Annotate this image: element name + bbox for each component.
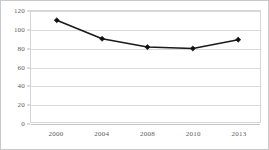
y-tick-label-100: 100	[14, 26, 25, 33]
data-point-2004	[100, 36, 105, 41]
y-axis: 020406080100120	[1, 10, 30, 123]
data-point-2008	[145, 45, 150, 50]
plot-area	[30, 10, 261, 123]
chart-frame: 020406080100120 20002004200820102013	[0, 0, 269, 150]
series-line-chart	[31, 11, 260, 122]
y-tick-label-60: 60	[18, 64, 25, 71]
y-tick-label-80: 80	[18, 45, 25, 52]
x-tick-label-2008: 2008	[140, 131, 155, 138]
y-tick-label-20: 20	[18, 102, 25, 109]
x-tick-label-2013: 2013	[232, 131, 247, 138]
x-tick-label-2010: 2010	[186, 131, 201, 138]
data-point-2010	[190, 46, 195, 51]
x-tick-label-2004: 2004	[94, 131, 109, 138]
series-marker-group	[54, 18, 241, 51]
y-tick-label-0: 0	[21, 121, 25, 128]
x-tick-label-2000: 2000	[49, 131, 64, 138]
data-point-2013	[236, 37, 241, 42]
y-tick-label-40: 40	[18, 83, 25, 90]
x-axis: 20002004200820102013	[30, 125, 261, 147]
y-tick-label-120: 120	[14, 8, 25, 15]
data-point-2000	[54, 18, 59, 23]
